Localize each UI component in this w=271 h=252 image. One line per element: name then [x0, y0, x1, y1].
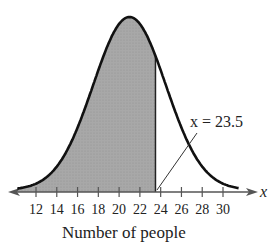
x-tick-label: 24: [154, 202, 168, 217]
x-tick-label: 20: [112, 202, 126, 217]
x-tick-label: 14: [50, 202, 64, 217]
x-tick-label: 30: [216, 202, 230, 217]
x-tick-label: 12: [29, 202, 43, 217]
x-tick-label: 28: [195, 202, 209, 217]
annotation-text: x = 23.5: [190, 113, 243, 130]
annotation-leader: [157, 133, 197, 190]
x-axis-label: Number of people: [62, 223, 186, 242]
x-tick-label: 18: [91, 202, 105, 217]
axis-variable: x: [259, 183, 267, 200]
normal-curve-chart: x = 23.5 x 12141618202224262830 Number o…: [0, 0, 271, 252]
x-tick-label: 26: [174, 202, 188, 217]
x-tick-label: 22: [133, 202, 147, 217]
x-tick-label: 16: [71, 202, 85, 217]
x-tick-labels: 12141618202224262830: [29, 202, 230, 217]
